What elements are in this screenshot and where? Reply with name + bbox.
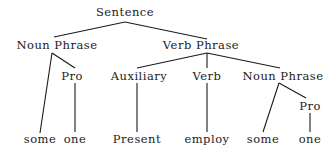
leaf-one-object: one [299,133,322,146]
node-pro-object: Pro [299,100,321,113]
edge-sentence-vp [125,22,207,39]
edge-vp-aux [137,53,207,68]
leaf-some: some [24,133,57,146]
node-pro: Pro [61,70,83,83]
node-sentence: Sentence [96,6,154,19]
leaf-some-object: some [247,133,280,146]
leaf-present: Present [113,133,161,146]
leaf-employ: employ [184,133,229,146]
edge-vp-np2 [207,53,280,68]
edge-np1-some [40,53,52,133]
edge-np2-some [263,83,279,132]
leaf-one: one [64,133,87,146]
syntax-tree-diagram: Sentence Noun Phrase Verb Phrase Pro Aux… [0,0,336,157]
node-verb: Verb [193,70,222,83]
node-noun-phrase-object: Noun Phrase [242,70,323,83]
node-noun-phrase: Noun Phrase [16,39,97,52]
edge-np1-pro [52,53,75,68]
edge-sentence-np [54,22,125,37]
node-verb-phrase: Verb Phrase [163,39,239,52]
node-auxiliary: Auxiliary [111,70,168,83]
edge-np2-pro [279,83,306,98]
